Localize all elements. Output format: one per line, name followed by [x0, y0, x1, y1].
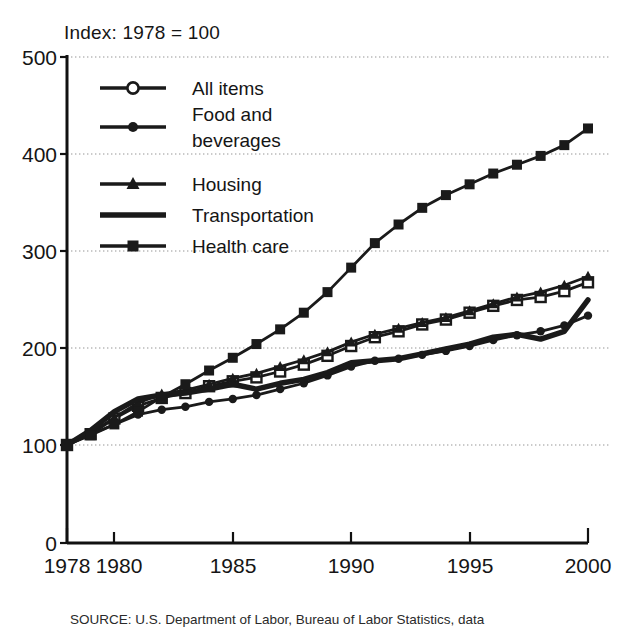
- filled-square-icon: [128, 241, 139, 252]
- legend-label-food-and-beverages-line2: beverages: [192, 130, 281, 151]
- legend-label-housing: Housing: [192, 174, 262, 195]
- filled-square-marker: [583, 123, 593, 133]
- filled-square-marker: [299, 308, 309, 318]
- filled-square-marker: [417, 203, 427, 213]
- x-tick-label-1995: 1995: [447, 554, 494, 577]
- filled-square-marker: [275, 324, 285, 334]
- filled-square-marker: [62, 440, 72, 450]
- series-all-items: [62, 277, 593, 450]
- filled-square-marker: [86, 430, 96, 440]
- data-series-layer: [62, 123, 594, 450]
- x-tick-label-1990: 1990: [328, 554, 375, 577]
- legend-item-health-care[interactable]: Health care: [100, 236, 289, 257]
- x-axis-ticks: [67, 528, 588, 543]
- filled-square-marker: [204, 366, 214, 376]
- x-tick-label-2000: 2000: [565, 554, 612, 577]
- filled-square-marker: [370, 238, 380, 248]
- x-tick-label-1978: 1978: [44, 554, 91, 577]
- series-transportation: [67, 300, 588, 445]
- x-tick-label-1980: 1980: [96, 554, 143, 577]
- legend-label-transportation: Transportation: [192, 205, 314, 226]
- y-tick-label-300: 300: [22, 240, 57, 263]
- series-line: [67, 282, 588, 445]
- filled-square-marker: [441, 190, 451, 200]
- filled-circle-marker: [536, 327, 544, 335]
- y-tick-label-400: 400: [22, 143, 57, 166]
- filled-circle-icon: [128, 122, 138, 132]
- filled-square-marker: [465, 179, 475, 189]
- y-tick-label-200: 200: [22, 337, 57, 360]
- filled-square-marker: [180, 379, 190, 389]
- filled-square-marker: [346, 263, 356, 273]
- filled-square-marker: [109, 419, 119, 429]
- filled-square-marker: [536, 151, 546, 161]
- series-line: [67, 300, 588, 445]
- legend-label-food-and-beverages-line1: Food and: [192, 104, 272, 125]
- legend-item-housing[interactable]: Housing: [100, 174, 262, 195]
- filled-square-marker: [512, 160, 522, 170]
- y-tick-label-0: 0: [45, 532, 57, 555]
- legend-label-all-items: All items: [192, 78, 264, 99]
- filled-square-marker: [394, 220, 404, 230]
- cpi-index-chart-figure: Index: 1978 = 100: [0, 0, 642, 628]
- chart-legend: All items Food and beverages Housing Tra…: [100, 78, 314, 257]
- filled-square-marker: [323, 287, 333, 297]
- x-tick-label-1985: 1985: [210, 554, 257, 577]
- filled-circle-marker: [205, 398, 213, 406]
- filled-circle-marker: [252, 391, 260, 399]
- filled-circle-marker: [181, 403, 189, 411]
- filled-square-marker: [251, 339, 261, 349]
- chart-plot-area: 500 400 300 200 100 0 1978 1980 1985 199…: [0, 0, 642, 628]
- open-circle-icon: [127, 82, 138, 93]
- source-note: SOURCE: U.S. Department of Labor, Bureau…: [70, 612, 484, 627]
- filled-square-marker: [228, 353, 238, 363]
- legend-item-food-and-beverages[interactable]: Food and beverages: [100, 104, 281, 151]
- filled-triangle-marker: [583, 271, 594, 281]
- filled-circle-marker: [158, 406, 166, 414]
- filled-circle-marker: [229, 395, 237, 403]
- legend-item-transportation[interactable]: Transportation: [100, 205, 314, 226]
- legend-label-health-care: Health care: [192, 236, 289, 257]
- y-tick-label-500: 500: [22, 46, 57, 69]
- filled-square-marker: [488, 169, 498, 179]
- filled-square-marker: [133, 407, 143, 417]
- legend-item-all-items[interactable]: All items: [100, 78, 264, 99]
- filled-square-marker: [559, 140, 569, 150]
- filled-circle-marker: [584, 311, 592, 319]
- filled-square-marker: [157, 392, 167, 402]
- y-tick-label-100: 100: [22, 434, 57, 457]
- gridlines: [67, 57, 610, 445]
